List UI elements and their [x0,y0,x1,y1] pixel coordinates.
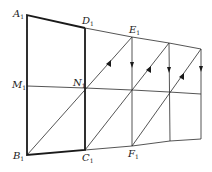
arrow-down-icon [167,67,171,73]
vertical-3 [169,43,170,141]
middle-line [27,86,201,94]
label-e1: E1 [128,24,140,36]
label-f1: F1 [127,148,139,160]
label-c1: C1 [82,152,93,164]
label-b1: B1 [12,150,24,162]
folded-net-diagram: A1 D1 E1 M1 N1 B1 C1 F1 [0,0,212,172]
bottom-edge [85,139,201,150]
top-edge [85,28,201,49]
label-n1: N1 [72,77,86,89]
diagonal-f [132,49,201,146]
arrow-down-icon [199,66,203,72]
label-a1: A1 [12,8,24,20]
label-m1: M1 [11,79,26,91]
label-d1: D1 [81,15,94,27]
arrow-down-icon [130,62,134,68]
diagonal-b-e [27,37,132,155]
diagonal-c [85,43,169,150]
arrow-icons [106,60,203,80]
